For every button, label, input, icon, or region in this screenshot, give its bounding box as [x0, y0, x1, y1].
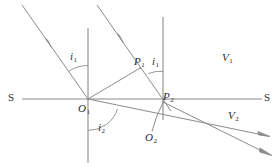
- label-angle-i2-text: i: [98, 121, 101, 133]
- angle-arc-i1-p2: [149, 71, 164, 73]
- label-v2: V2: [228, 110, 238, 121]
- label-p1: P1: [134, 56, 144, 67]
- refraction-diagram: S S O1 O2 P1 P2 i1 i1 i2 V1 V2: [0, 0, 279, 167]
- label-p2-sub: 2: [170, 96, 174, 104]
- label-o2-text: O: [145, 131, 153, 143]
- incident-wavefront: [88, 68, 141, 100]
- label-o2-sub: 2: [153, 137, 157, 145]
- vertex-o1: [87, 98, 89, 100]
- label-v1-sub: 1: [229, 57, 233, 65]
- label-v1: V1: [222, 52, 232, 63]
- refracted-ray-p2: [163, 102, 270, 155]
- diagram-canvas: [0, 0, 279, 167]
- label-angle-i1-p2: i1: [152, 56, 159, 67]
- refracted-wavefront: [152, 102, 164, 132]
- label-angle-i1-o1: i1: [70, 51, 77, 62]
- incident-ray-1: [22, 5, 88, 99]
- label-p2: P2: [163, 91, 173, 102]
- label-source-left: S: [8, 92, 14, 103]
- label-v2-sub: 2: [235, 115, 239, 123]
- incident-ray-1-arrowhead: [46, 39, 52, 48]
- label-angle-i2-sub: 2: [102, 127, 106, 135]
- label-o2: O2: [145, 132, 156, 143]
- refracted-ray-o1-arrowhead: [258, 132, 270, 137]
- refracted-ray-o1: [88, 99, 268, 136]
- label-o1: O1: [78, 103, 89, 114]
- label-angle-i1-o1-text: i: [70, 50, 73, 62]
- label-source-right: S: [264, 92, 270, 103]
- label-angle-i2: i2: [98, 122, 105, 133]
- incident-ray-2-arrowhead: [117, 34, 124, 44]
- angle-arc-i1-o1: [69, 65, 89, 71]
- label-v2-text: V: [228, 109, 235, 121]
- label-o1-sub: 1: [86, 108, 90, 116]
- label-o1-text: O: [78, 102, 86, 114]
- label-p1-text: P: [134, 55, 141, 67]
- label-v1-text: V: [222, 51, 229, 63]
- label-p1-sub: 1: [141, 61, 145, 69]
- label-p2-text: P: [163, 90, 170, 102]
- label-angle-i1-p2-text: i: [152, 55, 155, 67]
- label-angle-i1-p2-sub: 1: [156, 61, 160, 69]
- label-angle-i1-o1-sub: 1: [74, 56, 78, 64]
- refracted-ray-p2-arrowhead: [260, 148, 273, 156]
